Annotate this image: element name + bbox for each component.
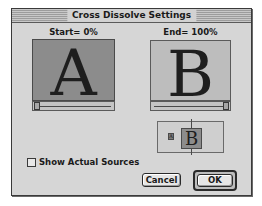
cross-dissolve-dialog: Cross Dissolve Settings Start= 0% End= 1…: [11, 8, 252, 196]
start-label: Start= 0%: [32, 27, 115, 37]
transition-mini-preview[interactable]: A B: [157, 121, 224, 153]
start-slider-track: [36, 106, 111, 107]
show-actual-sources-label[interactable]: Show Actual Sources: [39, 157, 139, 167]
title-bar[interactable]: Cross Dissolve Settings: [12, 9, 251, 23]
start-preview-letter: A: [50, 41, 96, 101]
show-actual-sources-checkbox[interactable]: [27, 158, 36, 167]
start-preview: A: [32, 39, 115, 101]
end-slider[interactable]: [150, 101, 231, 111]
mini-preview-a-thumb: A: [168, 133, 174, 140]
end-slider-track: [154, 106, 227, 107]
ok-button[interactable]: OK: [197, 174, 233, 187]
ok-button-default-ring: OK: [193, 170, 237, 191]
end-preview: B: [150, 40, 231, 101]
end-label: End= 100%: [150, 27, 231, 37]
dialog-title: Cross Dissolve Settings: [67, 9, 196, 22]
cancel-button[interactable]: Cancel: [142, 173, 181, 187]
mini-preview-b-thumb: B: [181, 128, 202, 149]
start-slider-thumb[interactable]: [34, 102, 40, 110]
start-slider[interactable]: [32, 101, 115, 111]
end-preview-letter: B: [167, 42, 214, 102]
end-slider-thumb[interactable]: [223, 102, 229, 110]
show-actual-sources-option[interactable]: Show Actual Sources: [27, 157, 139, 167]
